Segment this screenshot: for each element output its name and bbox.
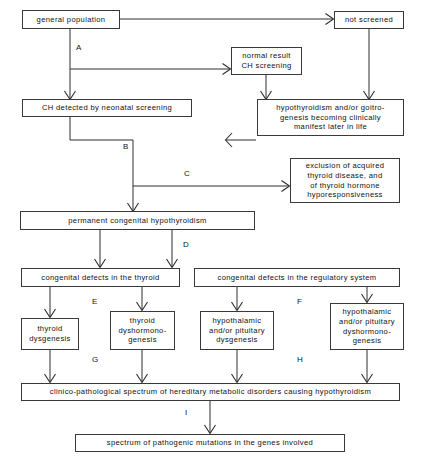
arrowhead-normalresult — [223, 64, 231, 75]
arrowhead-mutations — [205, 425, 216, 434]
arrowhead-spectrum-3 — [232, 374, 243, 383]
edge-label-i: I — [185, 408, 187, 417]
arrowhead-hyp-dyshormono — [362, 294, 373, 303]
edge-label-c: C — [184, 169, 190, 178]
edge-label-a: A — [76, 43, 82, 52]
node-clinico-pathological-spectrum[interactable]: clinico-pathological spectrum of heredit… — [21, 383, 400, 401]
arrowhead-spectrum-2 — [137, 374, 148, 383]
node-exclusion-acquired-thyroid-disease[interactable]: exclusion of acquired thyroid disease, a… — [290, 158, 400, 203]
edge-label-f: F — [297, 297, 302, 306]
arrowhead-notscreened — [326, 14, 334, 25]
node-not-screened[interactable]: not screened — [334, 11, 404, 29]
node-congenital-defects-in-the-regulatory-system[interactable]: congenital defects in the regulatory sys… — [194, 268, 400, 287]
arrowhead-thyroiddefects — [95, 259, 106, 268]
node-thyroid-dyshormonogenesis[interactable]: thyroid dyshormono- genesis — [110, 311, 175, 350]
node-thyroid-dysgenesis[interactable]: thyroid dysgenesis — [21, 318, 79, 350]
node-permanent-congenital-hypothyroidism[interactable]: permanent congenital hypothyroidism — [20, 211, 255, 230]
node-hypothalamic-pituitary-dysgenesis[interactable]: hypothalamic and/or pituitary dysgenesis — [200, 311, 274, 350]
flowchart-canvas: general population not screened normal r… — [0, 0, 421, 463]
node-congenital-defects-in-the-thyroid[interactable]: congenital defects in the thyroid — [21, 268, 180, 287]
arrowhead-hyp-dysgenesis — [232, 302, 243, 311]
node-normal-result-ch-screening[interactable]: normal result CH screening — [231, 47, 302, 75]
arrowhead-exclusion — [282, 181, 290, 192]
arrowhead-spectrum-4 — [362, 374, 373, 383]
arrowhead-trunk-from-hypo — [226, 133, 233, 147]
node-hypothalamic-pituitary-dyshormonogenesis[interactable]: hypothalamic and/or pituitary dyshormono… — [330, 303, 404, 350]
edge-label-h: H — [297, 355, 303, 364]
edge-chdetected-to-trunk — [70, 117, 133, 211]
arrowhead-thyroid-dyshormono — [137, 302, 148, 311]
arrowhead-spectrum-1 — [45, 374, 56, 383]
edge-label-e: E — [92, 297, 98, 306]
node-ch-detected-by-neonatal-screening[interactable]: CH detected by neonatal screening — [22, 99, 192, 117]
arrowhead-thyroid-dysgenesis — [45, 309, 56, 318]
edge-label-d: D — [183, 240, 189, 249]
node-general-population[interactable]: general population — [22, 10, 120, 29]
edge-label-g: G — [92, 355, 98, 364]
arrowhead-regulatorydefects — [167, 259, 178, 268]
node-spectrum-pathogenic-mutations[interactable]: spectrum of pathogenic mutations in the … — [75, 434, 345, 452]
node-hypothyroidism-manifest-later[interactable]: hypothyroidism and/or goitro- genesis be… — [257, 99, 404, 136]
edge-label-b: B — [123, 142, 129, 151]
